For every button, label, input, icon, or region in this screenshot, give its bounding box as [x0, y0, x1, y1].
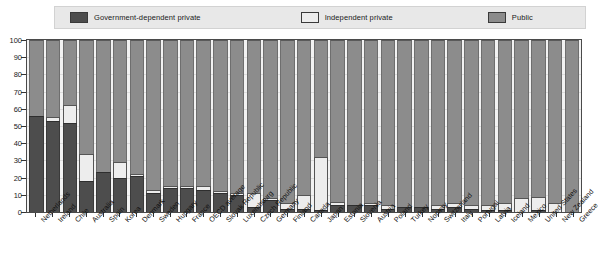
- bar-stack[interactable]: [96, 40, 111, 212]
- bar-segment-public: [280, 40, 295, 203]
- bar-segment-public: [130, 40, 145, 174]
- bar-segment-independent-private: [79, 154, 94, 182]
- x-axis-labels: NetherlandsIrelandChileAustraliaSpainKor…: [26, 218, 582, 270]
- legend-label-government-dependent-private: Government-dependent private: [94, 13, 201, 22]
- legend-swatch-public: [488, 12, 506, 23]
- bar-stack[interactable]: [347, 40, 362, 212]
- bar-segment-public: [46, 40, 61, 117]
- bar-stack[interactable]: [196, 40, 211, 212]
- bar-segment-public: [531, 40, 546, 197]
- bar-stack[interactable]: [314, 40, 329, 212]
- bar-segment-independent-private: [113, 162, 128, 177]
- bar-stack[interactable]: [498, 40, 513, 212]
- bar-stack[interactable]: [113, 40, 128, 212]
- bar-segment-public: [330, 40, 345, 202]
- bar-segment-public: [230, 40, 245, 193]
- bar-segment-public: [79, 40, 94, 154]
- bar-stack[interactable]: [79, 40, 94, 212]
- bar-stack[interactable]: [447, 40, 462, 212]
- chart-plot-wrapper: 1009080706050403020100 NetherlandsIrelan…: [0, 30, 590, 270]
- bar-segment-public: [548, 40, 563, 203]
- bar-segment-public: [213, 40, 228, 191]
- bar-segment-public: [196, 40, 211, 186]
- bar-segment-public: [447, 40, 462, 203]
- legend-label-independent-private: Independent private: [325, 13, 393, 22]
- bar-segment-public: [29, 40, 44, 116]
- bar-segment-government-dependent-private: [29, 116, 44, 212]
- legend-entry-government-dependent-private: Government-dependent private: [70, 12, 201, 23]
- bar-segment-public: [464, 40, 479, 205]
- bar-segment-public: [63, 40, 78, 105]
- bar-stack[interactable]: [213, 40, 228, 212]
- bar-stack[interactable]: [514, 40, 529, 212]
- bar-stack[interactable]: [397, 40, 412, 212]
- bar-segment-public: [381, 40, 396, 205]
- x-axis-tick: [35, 213, 36, 217]
- bar-segment-independent-private: [63, 105, 78, 122]
- chart-plot-area: [26, 39, 582, 213]
- bar-segment-public: [431, 40, 446, 205]
- chart-legend: Government-dependent private Independent…: [54, 6, 586, 29]
- bar-stack[interactable]: [381, 40, 396, 212]
- bar-segment-public: [314, 40, 329, 157]
- legend-entry-public: Public: [488, 12, 533, 23]
- bar-stack[interactable]: [481, 40, 496, 212]
- bar-segment-public: [247, 40, 262, 193]
- bar-stack[interactable]: [330, 40, 345, 212]
- bar-stack[interactable]: [180, 40, 195, 212]
- bar-stack[interactable]: [364, 40, 379, 212]
- bar-stack[interactable]: [297, 40, 312, 212]
- bar-segment-public: [163, 40, 178, 186]
- bar-stack[interactable]: [464, 40, 479, 212]
- bar-stack[interactable]: [431, 40, 446, 212]
- bar-stack[interactable]: [548, 40, 563, 212]
- bar-stack[interactable]: [29, 40, 44, 212]
- bar-segment-public: [297, 40, 312, 195]
- chart-bars: [27, 40, 581, 212]
- bar-segment-public: [498, 40, 513, 203]
- bar-segment-public: [364, 40, 379, 203]
- bar-stack[interactable]: [163, 40, 178, 212]
- bar-stack[interactable]: [531, 40, 546, 212]
- legend-swatch-independent-private: [301, 12, 319, 23]
- bar-segment-public: [397, 40, 412, 207]
- legend-label-public: Public: [512, 13, 533, 22]
- bar-segment-public: [514, 40, 529, 198]
- bar-segment-public: [146, 40, 161, 190]
- bar-segment-public: [414, 40, 429, 207]
- legend-swatch-government-dependent-private: [70, 12, 88, 23]
- bar-segment-public: [113, 40, 128, 162]
- bar-segment-public: [347, 40, 362, 205]
- bar-stack[interactable]: [146, 40, 161, 212]
- bar-stack[interactable]: [63, 40, 78, 212]
- bar-segment-public: [481, 40, 496, 205]
- bar-segment-public: [96, 40, 111, 172]
- bar-segment-public: [180, 40, 195, 186]
- legend-entry-independent-private: Independent private: [301, 12, 393, 23]
- bar-segment-public: [263, 40, 278, 198]
- bar-stack[interactable]: [414, 40, 429, 212]
- bar-stack[interactable]: [46, 40, 61, 212]
- bar-stack[interactable]: [130, 40, 145, 212]
